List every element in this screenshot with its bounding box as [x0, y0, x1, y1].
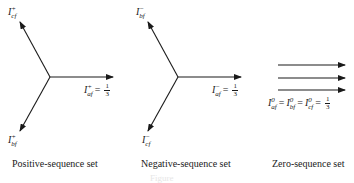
label-i-af-negative: I−af=13	[212, 83, 238, 98]
caption-negative-sequence: Negative-sequence set	[141, 158, 231, 169]
label-i-af-positive: I+af=13	[84, 83, 110, 98]
label-i-bf-negative: I−bf	[136, 6, 145, 20]
label-i-bf-positive: I+bf	[8, 134, 17, 148]
zero-sequence-phasors	[278, 65, 345, 90]
figure-caption: Figure	[150, 173, 174, 183]
label-i-cf-positive: I+cf	[8, 6, 16, 20]
phasor-diagram	[0, 0, 354, 183]
positive-sequence-phasors	[20, 22, 113, 131]
label-i-cf-negative: I−cf	[142, 134, 150, 148]
caption-zero-sequence: Zero-sequence set	[272, 158, 344, 169]
caption-positive-sequence: Positive-sequence set	[12, 158, 98, 169]
label-zero-sequence-equation: I0af=I0bf=I0cf=13	[268, 96, 330, 111]
negative-sequence-phasors	[148, 22, 241, 131]
